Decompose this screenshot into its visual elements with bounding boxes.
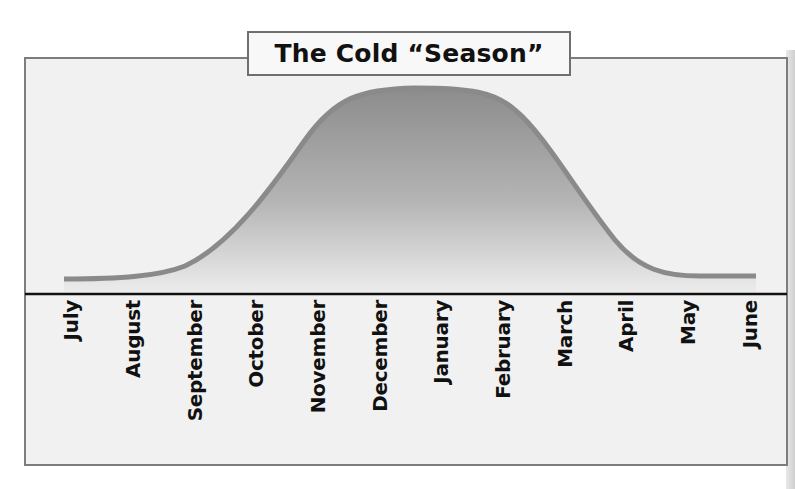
month-label-november: November — [305, 300, 331, 470]
chart-title-box: The Cold “Season” — [247, 31, 571, 76]
month-label-september: September — [182, 300, 208, 470]
cold-season-area — [64, 88, 756, 292]
month-label-july: July — [58, 300, 84, 470]
month-label-february: February — [490, 300, 516, 470]
month-label-march: March — [552, 300, 578, 470]
month-label-april: April — [613, 300, 639, 470]
month-label-june: June — [737, 300, 763, 470]
month-label-december: December — [367, 300, 393, 470]
month-label-may: May — [675, 300, 701, 470]
month-label-august: August — [120, 300, 146, 470]
month-label-october: October — [243, 300, 269, 470]
chart-title: The Cold “Season” — [274, 39, 543, 68]
month-label-january: January — [428, 300, 454, 470]
